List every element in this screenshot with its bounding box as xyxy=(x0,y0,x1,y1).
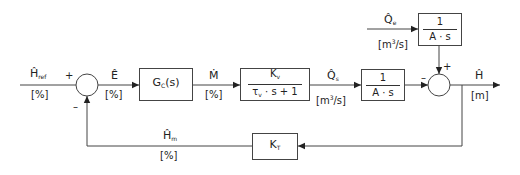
transmitter-sub: T xyxy=(277,144,281,151)
signal-m-label: Ṁ xyxy=(209,70,219,82)
valve-numerator: Kv xyxy=(267,68,283,83)
valve-denominator: τv · s + 1 xyxy=(249,86,300,101)
signal-qe-unit-suffix: /s] xyxy=(395,39,407,50)
signal-qs-unit-suffix: /s] xyxy=(333,95,345,106)
signal-qe-subscript: e xyxy=(393,19,397,26)
signal-e-label: Ê xyxy=(111,70,118,82)
signal-e-unit: [%] xyxy=(105,89,122,100)
tank-s-block: 1 A · s xyxy=(361,69,405,101)
valve-den-sub: v xyxy=(258,91,262,98)
signal-hm-label: Ĥm xyxy=(163,130,177,145)
signal-href-subscript: ref xyxy=(38,73,46,80)
valve-num-sub: v xyxy=(277,73,281,80)
signal-qs-unit: [m3/s] xyxy=(316,92,346,106)
signal-h-unit: [m] xyxy=(471,90,489,101)
signal-hm-subscript: m xyxy=(171,135,177,142)
signal-hm-unit: [%] xyxy=(160,150,177,161)
tank-s-fraction-bar xyxy=(366,85,400,86)
controller-main: G xyxy=(152,76,161,89)
signal-qe-symbol: Q̂ xyxy=(384,13,393,26)
tank-s-denominator: A · s xyxy=(369,87,397,99)
signal-href-label: Ĥref xyxy=(30,68,46,83)
transmitter-gain: KT xyxy=(270,139,281,154)
sum2-circle xyxy=(428,74,450,96)
signal-m-unit: [%] xyxy=(205,89,222,100)
tank-e-numerator: 1 xyxy=(434,16,446,28)
signal-qe-unit-prefix: [m xyxy=(378,39,392,50)
signal-href-unit: [%] xyxy=(31,89,48,100)
tank-e-block: 1 A · s xyxy=(418,13,462,46)
sum2-plus-sign: + xyxy=(443,62,451,72)
controller-transfer-function: GC(s) xyxy=(152,77,179,92)
valve-fraction-bar xyxy=(248,84,302,85)
signal-qe-label: Q̂e xyxy=(384,14,396,29)
controller-suffix: (s) xyxy=(165,76,179,89)
signal-qs-unit-prefix: [m xyxy=(316,95,330,106)
signal-qs-label: Q̂s xyxy=(327,70,339,85)
signal-qs-symbol: Q̂ xyxy=(327,69,336,82)
tank-e-fraction-bar xyxy=(423,29,457,30)
sum2-minus-sign: – xyxy=(421,73,426,83)
sum1-circle xyxy=(76,74,98,96)
signal-h-label: Ĥ xyxy=(475,70,483,82)
signal-qe-unit: [m3/s] xyxy=(378,36,408,50)
valve-block: Kv τv · s + 1 xyxy=(240,68,310,101)
tank-s-numerator: 1 xyxy=(377,72,389,84)
valve-den-suffix: · s + 1 xyxy=(265,86,298,97)
sum1-plus-sign: + xyxy=(65,71,73,81)
tank-e-denominator: A · s xyxy=(426,31,454,43)
transmitter-block: KT xyxy=(252,133,298,160)
signal-qs-subscript: s xyxy=(336,75,339,82)
transmitter-main: K xyxy=(270,138,277,151)
sum1-minus-sign: – xyxy=(73,102,78,112)
controller-block: GC(s) xyxy=(139,68,193,101)
